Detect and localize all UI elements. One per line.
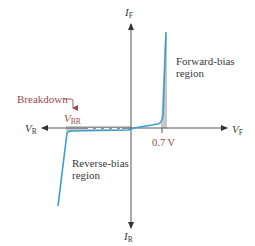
label-vr: VR — [25, 122, 37, 138]
label-breakdown: Breakdown — [17, 93, 68, 105]
label-ir: IR — [124, 230, 133, 246]
label-if: IF — [125, 6, 133, 22]
diode-iv-diagram — [0, 0, 255, 246]
label-vf: VF — [232, 123, 243, 139]
label-reverse-region: Reverse-bias region — [72, 157, 129, 181]
label-forward-region: Forward-bias region — [176, 55, 235, 79]
label-knee-voltage: 0.7 V — [152, 137, 175, 149]
label-vbr: VBR — [64, 112, 81, 128]
